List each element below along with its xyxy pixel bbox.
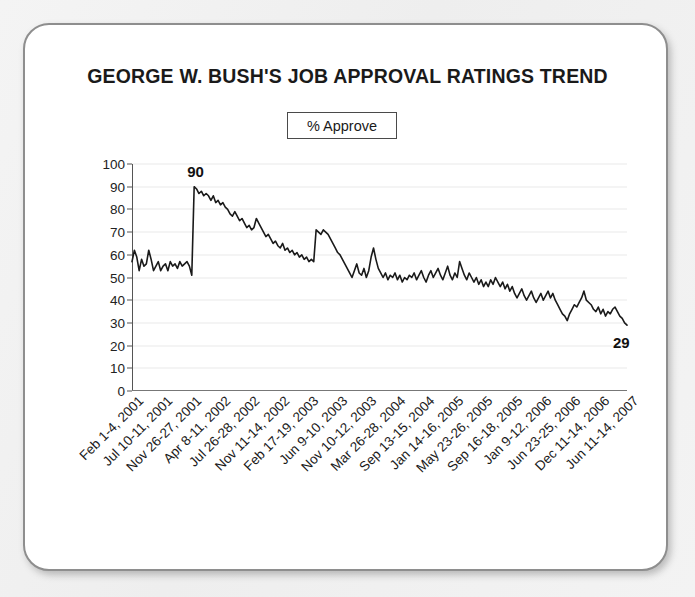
y-tick-label: 30 bbox=[110, 315, 125, 330]
plot-area: 0102030405060708090100 9029 bbox=[132, 164, 627, 391]
data-label-90: 90 bbox=[187, 163, 204, 180]
chart-card: GEORGE W. BUSH'S JOB APPROVAL RATINGS TR… bbox=[23, 23, 668, 571]
chart-legend: % Approve bbox=[287, 112, 397, 139]
y-tick-label: 10 bbox=[110, 361, 125, 376]
y-tick-label: 60 bbox=[110, 247, 125, 262]
y-tick-label: 0 bbox=[117, 384, 125, 399]
y-tick-label: 90 bbox=[110, 179, 125, 194]
y-tick-label: 80 bbox=[110, 202, 125, 217]
y-tick-label: 40 bbox=[110, 293, 125, 308]
page-title: GEORGE W. BUSH'S JOB APPROVAL RATINGS TR… bbox=[41, 64, 654, 88]
data-label-29: 29 bbox=[613, 334, 630, 351]
y-tick-label: 100 bbox=[102, 157, 125, 172]
y-tick-label: 70 bbox=[110, 225, 125, 240]
y-tick-label: 20 bbox=[110, 338, 125, 353]
y-tick-label: 50 bbox=[110, 270, 125, 285]
series-approve bbox=[132, 164, 627, 391]
legend-item-approve: % Approve bbox=[307, 118, 377, 134]
